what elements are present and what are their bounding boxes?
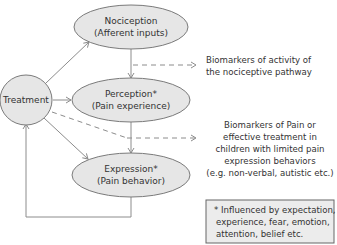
node-nociception: Nociception (Afferent inputs) — [74, 5, 188, 49]
node-expression: Expression* (Pain behavior) — [72, 153, 190, 197]
expression-title: Expression* — [104, 164, 158, 174]
annotation-biomarkers-activity: Biomarkers of activity of the nociceptiv… — [206, 55, 312, 77]
biomarkers-activity-line1: Biomarkers of activity of — [206, 55, 312, 65]
note-line2: experience, fear, emotion, — [216, 217, 330, 227]
biomarkers-pain-line1: Biomarkers of Pain or — [224, 120, 316, 130]
arrow-treatment-to-nociception — [46, 42, 89, 83]
nociception-title: Nociception — [104, 16, 157, 26]
annotation-biomarkers-pain: Biomarkers of Pain or effective treatmen… — [206, 120, 333, 178]
biomarkers-pain-line3: children with limited pain — [215, 144, 324, 154]
nociception-subtitle: (Afferent inputs) — [94, 28, 168, 38]
perception-title: Perception* — [105, 89, 158, 99]
expression-subtitle: (Pain behavior) — [97, 176, 165, 186]
treatment-label: Treatment — [2, 95, 49, 105]
biomarkers-pain-line4: expression behaviors — [224, 156, 316, 166]
perception-subtitle: (Pain experience) — [92, 101, 171, 111]
note-line1: * Influenced by expectation, — [214, 205, 336, 215]
arrow-treatment-to-expression — [44, 118, 88, 159]
note-line3: attention, belief etc. — [216, 229, 303, 239]
biomarkers-pain-line2: effective treatment in — [223, 132, 317, 142]
influence-note-box: * Influenced by expectation, experience,… — [206, 200, 336, 243]
node-perception: Perception* (Pain experience) — [72, 78, 190, 122]
node-treatment: Treatment — [0, 75, 52, 125]
biomarkers-activity-line2: the nociceptive pathway — [206, 67, 312, 77]
biomarkers-pain-line5: (e.g. non-verbal, autistic etc.) — [206, 168, 333, 178]
pain-model-diagram: Nociception (Afferent inputs) Perception… — [0, 0, 337, 245]
